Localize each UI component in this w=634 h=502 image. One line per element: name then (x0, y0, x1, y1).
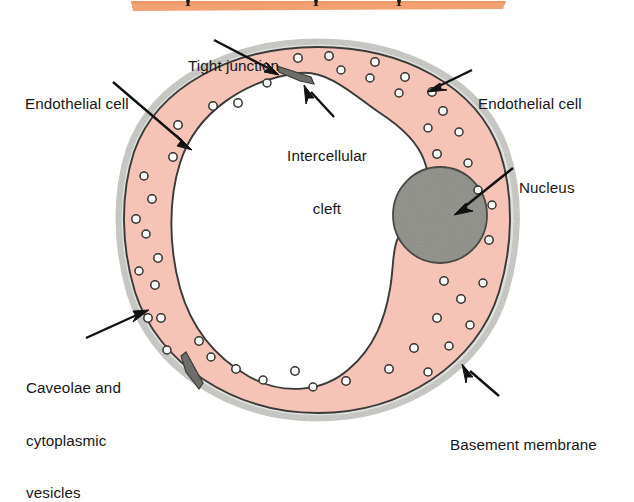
label-cleft-line2: cleft (268, 200, 386, 218)
top-orange-band (131, 0, 506, 11)
label-caveolae-line1: Caveolae and (26, 379, 121, 397)
label-endothelial-cell-left: Endothelial cell (25, 60, 129, 148)
nucleus-shape (393, 167, 487, 263)
label-basement-membrane: Basement membrane (450, 401, 597, 489)
label-basement-line1: Basement membrane (450, 436, 597, 454)
label-endothelial-right-line1: Endothelial cell (478, 95, 582, 113)
label-tight-junction: Tight junction (188, 22, 279, 110)
arrow-basement-membrane (462, 364, 499, 396)
label-tight-junction-line1: Tight junction (188, 57, 279, 75)
label-caveolae-line3: vesicles (26, 484, 121, 502)
label-caveolae-vesicles: Caveolae and cytoplasmic vesicles (26, 344, 121, 502)
label-nucleus-line1: Nucleus (519, 179, 575, 197)
label-nucleus: Nucleus (519, 144, 575, 232)
label-endothelial-cell-right: Endothelial cell (478, 60, 582, 148)
label-caveolae-line2: cytoplasmic (26, 432, 121, 450)
label-endothelial-left-line1: Endothelial cell (25, 95, 129, 113)
label-intercellular-cleft: Intercellular cleft (268, 112, 386, 252)
label-cleft-line1: Intercellular (268, 147, 386, 165)
